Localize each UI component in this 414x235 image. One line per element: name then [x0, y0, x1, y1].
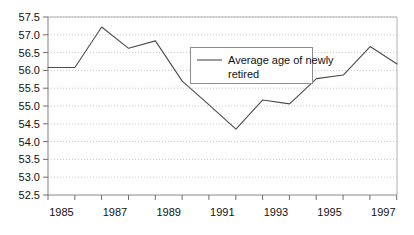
y-tick-label: 57.5: [19, 11, 40, 23]
chart-canvas: 57.5 57.0 56.5 56.0 55.5 55.0 54.5 54.0 …: [0, 0, 414, 235]
y-tick-label: 55.0: [19, 100, 40, 112]
x-tick-label: 1997: [371, 206, 395, 218]
y-tick-label: 54.5: [19, 118, 40, 130]
y-tick-label: 57.0: [19, 29, 40, 41]
chart-background: [0, 0, 414, 235]
legend-label-line-2: retired: [228, 68, 259, 80]
y-tick-label: 53.0: [19, 171, 40, 183]
x-tick-label: 1987: [103, 206, 127, 218]
x-tick-label: 1991: [210, 206, 234, 218]
x-tick-label: 1995: [317, 206, 341, 218]
chart-legend: Average age of newly retired: [191, 48, 335, 84]
y-tick-label: 52.5: [19, 189, 40, 201]
line-chart: 57.5 57.0 56.5 56.0 55.5 55.0 54.5 54.0 …: [0, 0, 414, 235]
y-tick-labels: 57.5 57.0 56.5 56.0 55.5 55.0 54.5 54.0 …: [19, 11, 40, 201]
y-tick-label: 56.0: [19, 64, 40, 76]
legend-label-line-1: Average age of newly: [228, 54, 334, 66]
y-tick-label: 56.5: [19, 47, 40, 59]
x-tick-label: 1985: [49, 206, 73, 218]
y-tick-label: 53.5: [19, 153, 40, 165]
x-tick-label: 1989: [156, 206, 180, 218]
x-tick-label: 1993: [264, 206, 288, 218]
y-tick-label: 54.0: [19, 136, 40, 148]
y-tick-label: 55.5: [19, 82, 40, 94]
